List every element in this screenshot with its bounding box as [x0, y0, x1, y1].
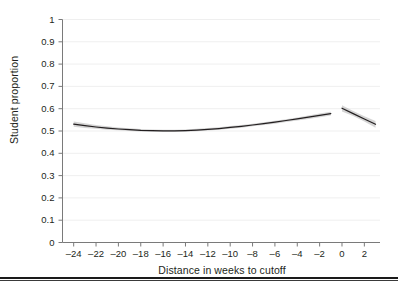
y-tick-label: 0: [27, 238, 55, 248]
y-tick-label: 0.8: [27, 59, 55, 69]
y-tick-label: 0.1: [27, 215, 55, 225]
grid-lines: [63, 20, 381, 221]
y-tick-label: 1: [27, 15, 55, 25]
chart-figure: Student proportion Distance in weeks to …: [0, 0, 398, 299]
y-tick-label: 0.3: [27, 171, 55, 181]
y-tick-label: 0.9: [27, 37, 55, 47]
y-tick-label: 0.5: [27, 126, 55, 136]
axes: [59, 20, 381, 247]
y-tick-label: 0.2: [27, 193, 55, 203]
y-axis-title: Student proportion: [8, 0, 26, 215]
fitted-line-1: [74, 114, 331, 131]
footer-rule-secondary: [0, 280, 398, 281]
fitted-line-2: [342, 108, 376, 124]
y-tick-label: 0.4: [27, 148, 55, 158]
x-axis-title: Distance in weeks to cutoff: [62, 264, 382, 276]
y-tick-label: 0.6: [27, 104, 55, 114]
fitted-lines: [74, 108, 376, 131]
x-tick-label: 2: [349, 249, 379, 259]
y-tick-label: 0.7: [27, 81, 55, 91]
footer-rule: [0, 277, 398, 279]
